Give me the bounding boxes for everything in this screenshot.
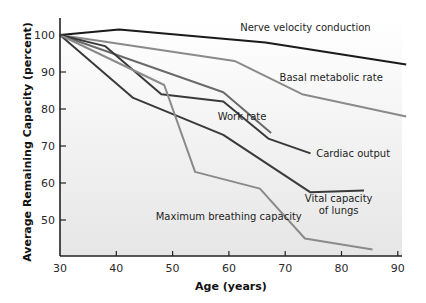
y-tick-label: 90 xyxy=(41,66,55,79)
series-label-maximum-breathing-capacity: Maximum breathing capacity xyxy=(156,211,302,222)
x-axis-title: Age (years) xyxy=(195,280,267,293)
x-tick-label: 40 xyxy=(109,262,123,275)
line-chart: 304050607080905060708090100 Nerve veloci… xyxy=(0,0,426,303)
series-label-vital-capacity-of-lungs-line2: of lungs xyxy=(319,205,359,216)
x-tick-label: 30 xyxy=(53,262,67,275)
series-label-work-rate: Work rate xyxy=(218,111,267,122)
y-axis-title: Average Remaining Capacity (percent) xyxy=(21,22,34,262)
x-tick-label: 60 xyxy=(222,262,236,275)
y-tick-label: 70 xyxy=(41,140,55,153)
series-label-vital-capacity-of-lungs: Vital capacity xyxy=(305,193,373,204)
x-tick-label: 90 xyxy=(391,262,405,275)
y-tick-label: 100 xyxy=(34,29,55,42)
x-tick-label: 80 xyxy=(335,262,349,275)
series-label-cardiac-output: Cardiac output xyxy=(316,148,390,159)
series-label-nerve-velocity-conduction: Nerve velocity conduction xyxy=(240,22,371,33)
series-label-basal-metabolic-rate: Basal metabolic rate xyxy=(280,72,383,83)
x-tick-label: 70 xyxy=(278,262,292,275)
y-tick-label: 50 xyxy=(41,214,55,227)
x-tick-label: 50 xyxy=(166,262,180,275)
y-tick-label: 80 xyxy=(41,103,55,116)
y-tick-label: 60 xyxy=(41,177,55,190)
